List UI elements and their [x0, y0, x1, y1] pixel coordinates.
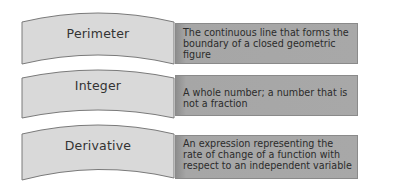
definition-box: An expression representing the rate of c…	[175, 135, 358, 179]
term-label: Perimeter	[22, 26, 174, 41]
definition-box: The continuous line that forms the bound…	[175, 23, 358, 64]
definition-box: A whole number; a number that is not a f…	[175, 75, 358, 116]
row-perimeter: Perimeter The continuous line that forms…	[0, 8, 397, 68]
term-label: Integer	[22, 78, 174, 93]
row-derivative: Derivative An expression representing th…	[0, 120, 397, 182]
row-integer: Integer A whole number; a number that is…	[0, 66, 397, 122]
term-banner-shape	[0, 66, 180, 126]
term-label: Derivative	[22, 138, 174, 153]
